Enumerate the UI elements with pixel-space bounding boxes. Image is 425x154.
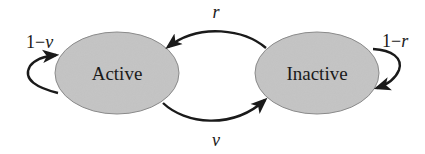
edge-inactive-self-loop-label: 1−r (382, 31, 409, 51)
edge-inactive-to-active-arrow (168, 31, 266, 48)
state-diagram: Active Inactive 1−ν r ν 1−r (0, 0, 425, 154)
edge-active-self-loop: 1−ν (26, 32, 58, 93)
edge-active-to-inactive-arrow (163, 100, 265, 121)
edge-active-self-loop-label: 1−ν (26, 32, 53, 52)
node-inactive-label: Inactive (286, 63, 347, 84)
node-active-label: Active (92, 63, 143, 84)
edge-active-to-inactive-label: ν (212, 130, 220, 150)
edge-inactive-to-active: r (168, 2, 266, 48)
edge-active-self-loop-arrow (28, 55, 58, 93)
edge-inactive-to-active-label: r (212, 2, 220, 22)
node-active: Active (55, 32, 179, 114)
edge-active-to-inactive: ν (163, 100, 265, 150)
node-inactive: Inactive (255, 32, 379, 114)
